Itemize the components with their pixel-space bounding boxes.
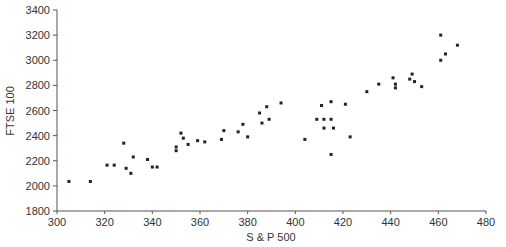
data-point xyxy=(439,59,442,62)
data-point xyxy=(413,80,416,83)
y-tick-label: 3000 xyxy=(26,54,50,66)
data-point xyxy=(132,155,135,158)
data-point xyxy=(394,83,397,86)
data-point xyxy=(203,140,206,143)
y-tick-label: 2400 xyxy=(26,130,50,142)
data-point xyxy=(175,149,178,152)
data-point xyxy=(175,145,178,148)
x-axis-title: S & P 500 xyxy=(246,231,295,243)
data-points xyxy=(67,34,458,183)
data-point xyxy=(332,127,335,130)
data-point xyxy=(377,83,380,86)
data-point xyxy=(330,118,333,121)
x-tick-label: 420 xyxy=(334,216,352,228)
data-point xyxy=(220,138,223,141)
data-point xyxy=(456,44,459,47)
data-point xyxy=(179,132,182,135)
data-point xyxy=(411,73,414,76)
y-tick-label: 2200 xyxy=(26,155,50,167)
x-tick-label: 460 xyxy=(429,216,447,228)
x-axis: 300320340360380400420440460480 xyxy=(48,211,495,228)
x-tick-label: 360 xyxy=(191,216,209,228)
data-point xyxy=(67,180,70,183)
x-tick-label: 320 xyxy=(95,216,113,228)
data-point xyxy=(439,34,442,37)
data-point xyxy=(392,76,395,79)
data-point xyxy=(408,78,411,81)
data-point xyxy=(330,100,333,103)
data-point xyxy=(322,127,325,130)
data-point xyxy=(182,137,185,140)
data-point xyxy=(113,164,116,167)
data-point xyxy=(241,123,244,126)
data-point xyxy=(268,118,271,121)
x-tick-label: 480 xyxy=(477,216,495,228)
data-point xyxy=(349,135,352,138)
y-tick-label: 2600 xyxy=(26,105,50,117)
data-point xyxy=(146,158,149,161)
data-point xyxy=(125,167,128,170)
x-tick-label: 300 xyxy=(48,216,66,228)
data-point xyxy=(420,85,423,88)
data-point xyxy=(365,90,368,93)
data-point xyxy=(444,52,447,55)
y-tick-label: 3200 xyxy=(26,29,50,41)
y-axis: 180020002200240026002800300032003400 xyxy=(26,4,57,217)
data-point xyxy=(129,172,132,175)
y-axis-title: FTSE 100 xyxy=(4,86,16,136)
data-point xyxy=(187,143,190,146)
y-tick-label: 3400 xyxy=(26,4,50,16)
data-point xyxy=(222,129,225,132)
x-tick-label: 340 xyxy=(143,216,161,228)
data-point xyxy=(196,139,199,142)
data-point xyxy=(156,166,159,169)
data-point xyxy=(237,130,240,133)
data-point xyxy=(394,86,397,89)
data-point xyxy=(280,101,283,104)
x-tick-label: 400 xyxy=(286,216,304,228)
data-point xyxy=(106,164,109,167)
y-tick-label: 2800 xyxy=(26,79,50,91)
data-point xyxy=(122,142,125,145)
data-point xyxy=(260,122,263,125)
data-point xyxy=(89,180,92,183)
y-tick-label: 1800 xyxy=(26,205,50,217)
data-point xyxy=(303,138,306,141)
x-tick-label: 380 xyxy=(238,216,256,228)
data-point xyxy=(265,105,268,108)
data-point xyxy=(344,103,347,106)
data-point xyxy=(320,104,323,107)
data-point xyxy=(151,166,154,169)
scatter-chart: 180020002200240026002800300032003400 300… xyxy=(0,0,506,247)
data-point xyxy=(330,153,333,156)
x-tick-label: 440 xyxy=(381,216,399,228)
data-point xyxy=(322,118,325,121)
y-tick-label: 2000 xyxy=(26,180,50,192)
data-point xyxy=(246,135,249,138)
data-point xyxy=(258,112,261,115)
data-point xyxy=(315,118,318,121)
